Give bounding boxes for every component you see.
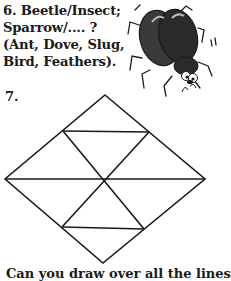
question-6-line-1: 6. Beetle/Insect;	[3, 2, 123, 19]
line-puzzle-diagram	[0, 80, 223, 266]
question-6: 6. Beetle/Insect; Sparrow/.... ? (Ant, D…	[3, 2, 123, 70]
question-6-line-2: Sparrow/.... ?	[3, 19, 123, 36]
bottom-instruction-text: Can you draw over all the lines	[6, 266, 231, 281]
partial-illustration-edge	[180, 80, 223, 100]
question-6-line-4: Bird, Feathers).	[3, 53, 123, 70]
question-6-line-3: (Ant, Dove, Slug,	[3, 36, 123, 53]
